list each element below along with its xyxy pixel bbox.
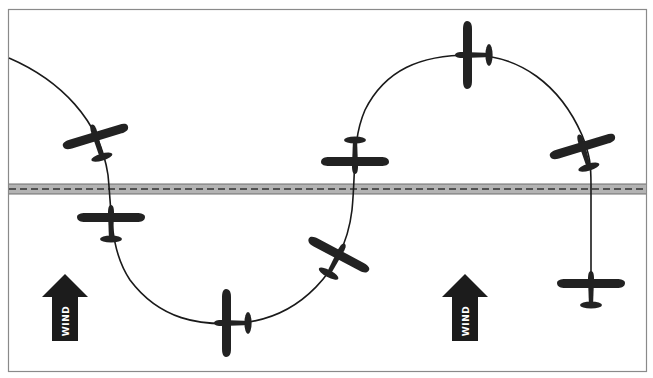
wind-label: WIND [61, 306, 71, 336]
s-turns-diagram: WIND WIND [0, 0, 653, 378]
wind-label: WIND [461, 306, 471, 336]
road [9, 184, 646, 194]
